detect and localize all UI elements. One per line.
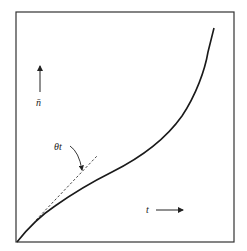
y-axis-label: n̄ <box>36 97 41 108</box>
x-axis-label: t <box>146 204 149 215</box>
plot-frame <box>16 12 234 242</box>
annotation-label: θt <box>54 141 62 152</box>
annotation-arrow <box>70 146 82 170</box>
n-bar-curve <box>17 28 214 242</box>
diagram: θt n̄ t <box>0 0 247 251</box>
tangent-dashed-line <box>36 156 97 220</box>
